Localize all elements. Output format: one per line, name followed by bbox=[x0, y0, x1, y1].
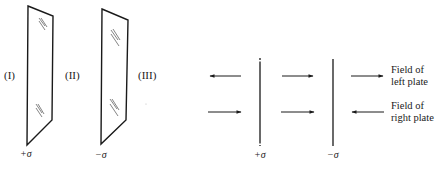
perspective-plate-negative bbox=[101, 9, 128, 144]
region-label-i: (I) bbox=[4, 70, 15, 81]
legend-right-plate-field: Field of right plate bbox=[391, 100, 434, 124]
perspective-plate-positive bbox=[27, 6, 53, 145]
hatch-icon bbox=[36, 18, 47, 117]
edge-charge-label-positive: +σ bbox=[254, 150, 266, 160]
parallel-plate-field-diagram: (I) (II) (III) +σ −σ +σ −σ Field of left… bbox=[0, 0, 438, 171]
diagram-canvas bbox=[0, 0, 438, 171]
legend-line: right plate bbox=[391, 112, 434, 124]
region-label-ii: (II) bbox=[65, 70, 80, 81]
legend-line: left plate bbox=[391, 76, 428, 88]
legend-line: Field of bbox=[391, 100, 434, 112]
charge-label-positive: +σ bbox=[20, 149, 32, 159]
edge-charge-label-negative: −σ bbox=[327, 150, 339, 160]
region-label-iii: (III) bbox=[138, 70, 156, 81]
charge-label-negative: −σ bbox=[95, 150, 107, 160]
hatch-icon bbox=[110, 29, 120, 116]
legend-line: Field of bbox=[391, 64, 428, 76]
legend-left-plate-field: Field of left plate bbox=[391, 64, 428, 88]
stray-dot bbox=[145, 103, 146, 104]
